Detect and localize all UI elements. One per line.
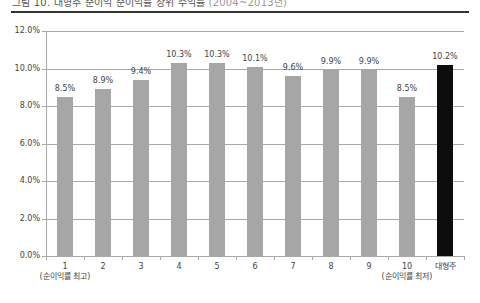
y-axis-label: 0.0% bbox=[20, 251, 40, 260]
bar bbox=[57, 97, 73, 256]
chart-title: 그림 10. 대형주 순이익 순이익률 상위 수익률 (2004~2013년) bbox=[12, 0, 287, 9]
x-axis-label: 대형주 bbox=[415, 262, 475, 272]
gridline bbox=[46, 256, 464, 257]
bar bbox=[399, 97, 415, 256]
chart-title-main: 그림 10. 대형주 순이익 순이익률 상위 수익률 bbox=[12, 0, 205, 8]
x-tick bbox=[198, 256, 199, 260]
y-axis-label: 12.0% bbox=[15, 26, 40, 35]
bar-value-label: 9.9% bbox=[311, 57, 351, 66]
bar-value-label: 10.3% bbox=[197, 50, 237, 59]
y-axis-label: 2.0% bbox=[20, 214, 40, 223]
bar-value-label: 10.2% bbox=[425, 52, 465, 61]
x-tick bbox=[426, 256, 427, 260]
bar bbox=[361, 70, 377, 256]
y-axis-label: 8.0% bbox=[20, 101, 40, 110]
bar bbox=[171, 63, 187, 256]
y-axis bbox=[46, 31, 47, 257]
gridline bbox=[46, 31, 464, 32]
bar-value-label: 10.3% bbox=[159, 50, 199, 59]
bar-value-label: 9.9% bbox=[349, 57, 389, 66]
bar bbox=[323, 70, 339, 256]
y-axis-label: 10.0% bbox=[15, 64, 40, 73]
bar-value-label: 8.5% bbox=[45, 84, 85, 93]
bar-value-label: 10.1% bbox=[235, 54, 275, 63]
y-axis-label: 4.0% bbox=[20, 176, 40, 185]
bar bbox=[95, 89, 111, 256]
x-tick bbox=[274, 256, 275, 260]
bar bbox=[247, 67, 263, 256]
title-rule bbox=[11, 11, 469, 13]
x-tick bbox=[350, 256, 351, 260]
x-tick bbox=[160, 256, 161, 260]
x-tick bbox=[46, 256, 47, 260]
bar-highlight bbox=[437, 65, 453, 256]
x-tick bbox=[312, 256, 313, 260]
bar bbox=[133, 80, 149, 256]
x-tick bbox=[84, 256, 85, 260]
bar-value-label: 9.6% bbox=[273, 63, 313, 72]
bar-value-label: 8.9% bbox=[83, 76, 123, 85]
y-axis-label: 6.0% bbox=[20, 139, 40, 148]
chart-title-sub: (2004~2013년) bbox=[209, 0, 287, 8]
bar bbox=[285, 76, 301, 256]
bar-value-label: 9.4% bbox=[121, 67, 161, 76]
bar-value-label: 8.5% bbox=[387, 84, 427, 93]
x-tick bbox=[236, 256, 237, 260]
x-tick bbox=[388, 256, 389, 260]
bar bbox=[209, 63, 225, 256]
x-tick bbox=[122, 256, 123, 260]
x-tick bbox=[464, 256, 465, 260]
